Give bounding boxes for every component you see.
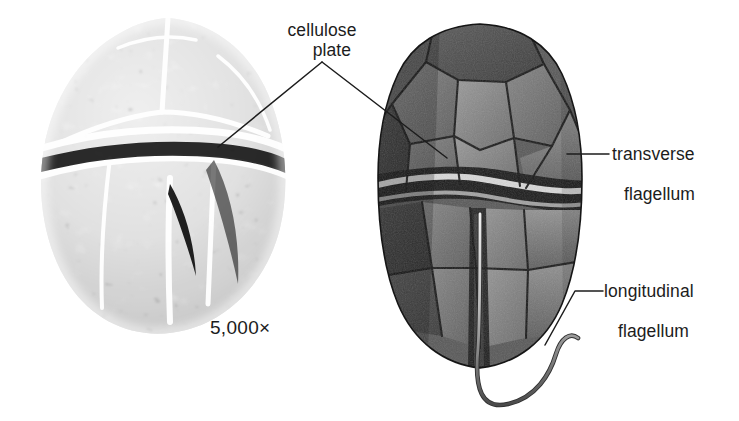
- label-longitudinal-flagellum-line2: flagellum: [604, 321, 739, 341]
- label-longitudinal-flagellum-line1: longitudinal: [604, 281, 694, 301]
- figure-canvas: cellulose plate transverse flagellum lon…: [0, 0, 739, 421]
- label-magnification: 5,000×: [210, 318, 270, 338]
- label-cellulose-plate-line2: plate: [313, 40, 351, 60]
- label-transverse-flagellum-line2: flagellum: [612, 184, 737, 204]
- label-cellulose-plate: cellulose plate: [252, 20, 392, 80]
- label-cellulose-plate-line1: cellulose: [288, 20, 357, 40]
- label-transverse-flagellum: transverse flagellum: [612, 144, 737, 244]
- leader-longitudinal-flagellum: [545, 291, 603, 345]
- label-transverse-flagellum-line1: transverse: [612, 144, 695, 164]
- label-longitudinal-flagellum: longitudinal flagellum: [604, 281, 739, 381]
